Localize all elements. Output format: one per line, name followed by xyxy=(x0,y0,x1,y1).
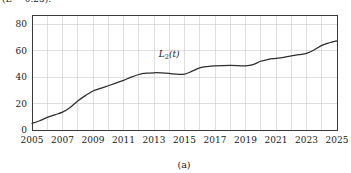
x-axis-tick-labels: 2005200720092011201320152017201920212023… xyxy=(21,135,349,145)
y-tick-label: 0 xyxy=(21,125,27,135)
line-chart: 020406080 200520072009201120132015201720… xyxy=(0,0,351,173)
x-tick-label: 2013 xyxy=(143,135,166,145)
series-annotation-label: L2(t) xyxy=(158,49,180,61)
x-tick-label: 2023 xyxy=(295,135,318,145)
x-tick-label: 2009 xyxy=(82,135,105,145)
y-tick-label: 60 xyxy=(16,46,28,56)
figure-caption: (a) xyxy=(177,159,190,170)
x-tick-label: 2019 xyxy=(234,135,257,145)
x-tick-label: 2017 xyxy=(204,135,227,145)
x-tick-label: 2005 xyxy=(21,135,44,145)
y-tick-label: 40 xyxy=(16,72,28,82)
x-tick-label: 2021 xyxy=(265,135,288,145)
x-tick-label: 2007 xyxy=(51,135,74,145)
y-axis-tick-labels: 020406080 xyxy=(16,19,28,135)
gridlines-group xyxy=(32,15,337,130)
x-tick-label: 2011 xyxy=(112,135,135,145)
x-tick-label: 2025 xyxy=(326,135,349,145)
y-tick-label: 80 xyxy=(16,19,28,29)
y-tick-label: 20 xyxy=(16,99,28,109)
x-tick-label: 2015 xyxy=(173,135,196,145)
figure-container: (L = 0.25). 020406080 200520072009201120… xyxy=(0,0,351,173)
